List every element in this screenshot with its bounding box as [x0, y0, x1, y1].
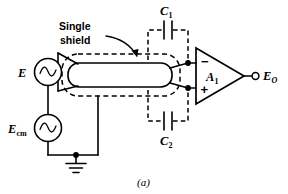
amp-inverting-sign: −: [201, 54, 209, 69]
output-subscript: O: [272, 76, 278, 85]
figure-label: (a): [137, 176, 150, 189]
c2-subscript: 2: [169, 141, 173, 150]
source-e: [35, 59, 62, 86]
amp-noninverting-sign: +: [201, 82, 209, 97]
ground-icon: [66, 164, 86, 173]
source-ecm-label: E cm: [7, 122, 27, 138]
output-lead: [244, 73, 259, 80]
amp-noninverting-node: [185, 85, 196, 91]
capacitor-c2-group: [148, 88, 188, 130]
capacitor-c2-label: C 2: [160, 134, 173, 150]
amp-inverting-node: [185, 60, 196, 66]
cable-inner-conductor: [68, 63, 172, 87]
circuit-diagram: Single shield C 1 C 2 E E cm A 1 − +: [0, 0, 288, 194]
callout-line1: Single: [59, 20, 91, 32]
output-terminal-icon: [252, 73, 259, 80]
figure-container: Single shield C 1 C 2 E E cm A 1 − +: [0, 0, 288, 194]
callout-line2: shield: [60, 34, 90, 46]
source-e-label: E: [17, 66, 26, 80]
source-ecm-name: E: [7, 122, 16, 136]
amp-subscript: 1: [215, 77, 219, 86]
capacitor-c2-plates: [164, 112, 172, 130]
output-name: E: [262, 69, 271, 83]
source-ecm-subscript: cm: [17, 129, 28, 138]
source-ecm: [35, 115, 62, 142]
output-label: E O: [262, 69, 278, 85]
capacitor-c1-group: [148, 21, 188, 63]
capacitor-c1-label: C 1: [160, 4, 173, 20]
capacitor-c1-plates: [164, 21, 172, 39]
c1-subscript: 1: [169, 11, 173, 20]
source-e-name: E: [17, 66, 26, 80]
